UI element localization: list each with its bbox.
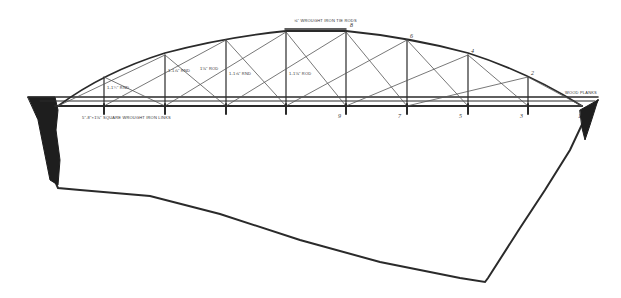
node-label: 1 xyxy=(578,113,581,119)
node-label: 7 xyxy=(398,113,402,119)
node-label: 2 xyxy=(531,70,534,76)
node-label: 4 xyxy=(471,48,474,54)
node-label: 9 xyxy=(338,113,341,119)
center-label: 1-1⅛" ROD xyxy=(289,71,311,76)
diag-2-label: 1⅛" ROD xyxy=(200,66,218,71)
vertical-1-label: 1-1⅞" RND xyxy=(168,68,190,73)
node-label: 3 xyxy=(519,113,523,119)
bridge-drawing: ⅝" WROUGHT IRON TIE RODS 1-1¾" RND 1-1⅞"… xyxy=(0,0,621,298)
diag-left-label: 1-1¾" RND xyxy=(107,85,129,90)
riverbank-outline xyxy=(40,100,598,282)
node-label: 5 xyxy=(459,113,462,119)
diagonals xyxy=(58,32,582,106)
node-label: 8 xyxy=(350,22,353,28)
vertical-2-label: 1-1⅝" RND xyxy=(229,71,251,76)
wood-planks-label: WOOD PLANKS xyxy=(565,90,597,95)
tie-rods-label: ⅝" WROUGHT IRON TIE RODS xyxy=(294,18,357,23)
floor-beam-label: 5"-8"×1⅛" SQUARE WROUGHT IRON LINKS xyxy=(82,115,171,120)
node-label: 6 xyxy=(410,33,413,39)
left-abutment xyxy=(28,97,60,185)
